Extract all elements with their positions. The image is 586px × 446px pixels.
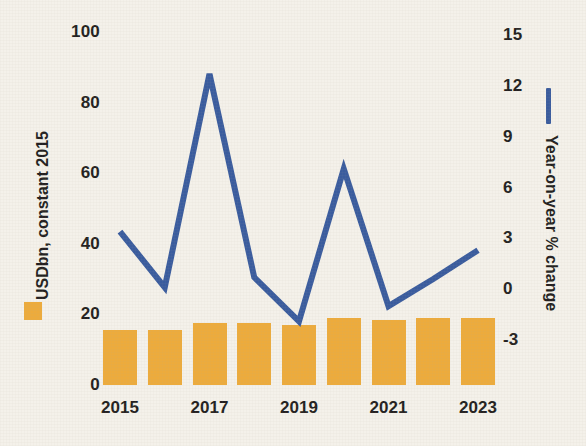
line-series-path bbox=[120, 74, 478, 321]
chart-container: USDbn, constant 2015 Year-on-year % chan… bbox=[0, 0, 586, 446]
line-series bbox=[0, 0, 586, 446]
